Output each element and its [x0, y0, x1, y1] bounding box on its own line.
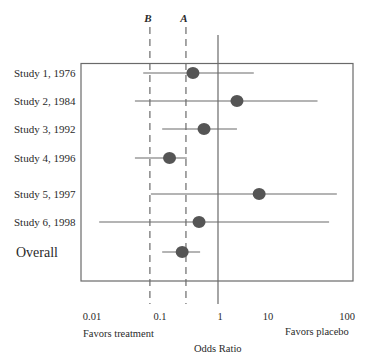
study-row: Study 4, 1996 — [14, 152, 187, 164]
reference-line-labels: BA — [143, 12, 187, 24]
x-tick-label: 1 — [217, 311, 222, 322]
x-axis-title: Odds Ratio — [194, 343, 242, 354]
study-row: Study 2, 1984 — [14, 95, 318, 107]
study-label: Study 2, 1984 — [14, 95, 76, 107]
overall-label: Overall — [16, 245, 58, 260]
reference-lines — [150, 27, 218, 304]
study-label: Study 1, 1976 — [14, 67, 76, 79]
point-estimate-marker — [163, 152, 176, 164]
forest-plot: BA Study 1, 1976Study 2, 1984Study 3, 19… — [0, 0, 367, 360]
point-estimate-marker — [186, 67, 199, 79]
study-label: Study 4, 1996 — [14, 152, 76, 164]
study-row: Study 3, 1992 — [14, 123, 237, 135]
overall-point-estimate-marker — [176, 246, 189, 258]
study-label: Study 6, 1998 — [14, 216, 76, 228]
point-estimate-marker — [193, 216, 206, 228]
study-label: Study 5, 1997 — [14, 188, 76, 200]
x-tick-label: 0.01 — [83, 311, 101, 322]
favors-treatment-label: Favors treatment — [83, 328, 154, 339]
x-axis-tick-labels: 0.010.1110100 — [83, 311, 355, 322]
point-estimate-marker — [253, 188, 266, 200]
plot-frame — [81, 64, 353, 282]
study-rows: Study 1, 1976Study 2, 1984Study 3, 1992S… — [14, 67, 337, 228]
x-tick-label: 100 — [339, 311, 355, 322]
study-label: Study 3, 1992 — [14, 123, 75, 135]
point-estimate-marker — [198, 123, 211, 135]
favors-placebo-label: Favors placebo — [285, 326, 349, 337]
point-estimate-marker — [230, 95, 243, 107]
study-row: Study 5, 1997 — [14, 188, 337, 200]
overall-row: Overall — [16, 245, 200, 260]
reference-label-b: B — [143, 12, 151, 24]
reference-label-a: A — [179, 12, 187, 24]
x-tick-label: 0.1 — [153, 311, 166, 322]
x-tick-label: 10 — [263, 311, 274, 322]
study-row: Study 6, 1998 — [14, 216, 329, 228]
